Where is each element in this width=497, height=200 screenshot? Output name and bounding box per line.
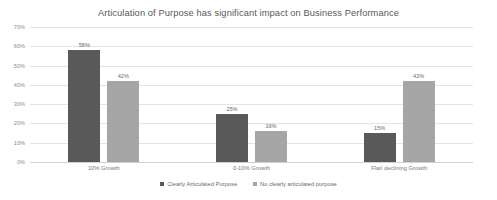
chart-title: Articulation of Purpose has significant …: [0, 8, 497, 18]
x-axis-tick-label: Flat/ declining Growth: [371, 165, 427, 171]
y-axis-tick-label: 60%: [14, 43, 25, 49]
bar-value-label: 42%: [413, 73, 424, 79]
gridline: [30, 27, 473, 28]
plot-area: 58%42%25%16%15%42%: [30, 27, 473, 162]
bar: [216, 114, 248, 162]
legend-swatch-icon: [160, 182, 164, 186]
bar-value-label: 25%: [226, 106, 237, 112]
legend-label: No clearly articulated purpose: [260, 181, 337, 187]
gridline: [30, 46, 473, 47]
bar-value-label: 42%: [118, 73, 129, 79]
legend-swatch-icon: [253, 182, 257, 186]
x-axis-tick-label: 10% Growth: [88, 165, 120, 171]
y-axis-tick-label: 10%: [14, 140, 25, 146]
legend-item[interactable]: Clearly Articulated Purpose: [160, 181, 237, 187]
chart-legend: Clearly Articulated PurposeNo clearly ar…: [0, 181, 497, 187]
bar: [403, 81, 435, 162]
y-axis-tick-label: 50%: [14, 63, 25, 69]
legend-item[interactable]: No clearly articulated purpose: [253, 181, 337, 187]
bar: [255, 131, 287, 162]
bar: [364, 133, 396, 162]
bar-value-label: 16%: [265, 123, 276, 129]
bar-value-label: 58%: [79, 42, 90, 48]
y-axis-tick-label: 30%: [14, 101, 25, 107]
y-axis-tick-label: 20%: [14, 120, 25, 126]
x-axis: 10% Growth0-10% GrowthFlat/ declining Gr…: [30, 165, 473, 177]
bar: [107, 81, 139, 162]
y-axis-tick-label: 70%: [14, 24, 25, 30]
bar-chart: Articulation of Purpose has significant …: [0, 0, 497, 200]
y-axis-tick-label: 40%: [14, 82, 25, 88]
y-axis-tick-label: 0%: [17, 159, 25, 165]
legend-label: Clearly Articulated Purpose: [167, 181, 237, 187]
y-axis: 0%10%20%30%40%50%60%70%: [0, 27, 28, 162]
gridline: [30, 162, 473, 163]
bar-value-label: 15%: [374, 125, 385, 131]
x-axis-tick-label: 0-10% Growth: [233, 165, 270, 171]
bar: [68, 50, 100, 162]
